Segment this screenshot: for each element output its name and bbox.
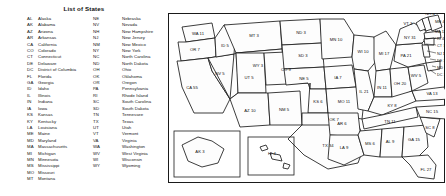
state-list-and-map-figure: List of States ALAKAZARCACOCTDEDCFLGAIDI… — [0, 0, 446, 196]
map-label-NH: NH 4 — [425, 13, 435, 16]
map-label-SC: SC 8 — [425, 125, 435, 130]
leader-line-DE — [430, 59, 436, 60]
map-label-TX: TX 34 — [322, 143, 334, 148]
map-label-RI: RI 4 — [437, 37, 444, 41]
map-label-MA: MA 12 — [435, 30, 445, 34]
map-label-NV: NV 5 — [215, 71, 225, 76]
map-label-CO: CO 9 — [281, 67, 292, 72]
map-label-WV: WV 5 — [411, 73, 422, 78]
map-label-MT: MT 3 — [249, 33, 259, 38]
state-abbr: MT — [27, 176, 38, 182]
leader-line-DC — [430, 70, 436, 74]
map-label-AL: AL 9 — [386, 139, 395, 144]
map-label-NM: NM 5 — [279, 107, 290, 112]
map-label-IN: IN 11 — [377, 85, 388, 90]
map-label-OH: OH 20 — [394, 81, 407, 86]
map-label-KS: KS 6 — [313, 99, 323, 104]
map-label-HI: HI 4 — [268, 151, 277, 156]
state-name: Montana — [38, 176, 84, 182]
map-label-ND: ND 3 — [296, 30, 306, 35]
map-label-AZ: AZ 10 — [244, 108, 256, 113]
map-label-CA: CA 55 — [186, 85, 198, 90]
state-abbr: WY — [93, 163, 122, 169]
us-electoral-map-panel: WA 11 OR 7 CA 55 NV 5 ID 5 MT 3 WY 3 UT … — [168, 13, 445, 183]
map-label-WY: WY 3 — [253, 63, 264, 68]
map-label-AK: AK 3 — [195, 149, 205, 154]
map-label-CT: CT 7 — [437, 44, 445, 48]
state-shape-CT — [424, 38, 434, 45]
map-label-MI: MI 17 — [379, 51, 390, 56]
map-label-ME: ME 4 — [435, 19, 445, 24]
state-abbr-column-2: NENVNHNJNMNYNCNDOHOKORPARISCSDTNTXUTVTVA… — [84, 16, 122, 183]
map-label-AR: AR 6 — [337, 121, 347, 126]
map-label-MO: MO 11 — [338, 99, 351, 104]
map-label-WA: WA 11 — [192, 31, 205, 36]
state-name-column-2: NebraskaNevadaNew HampshireNew JerseyNew… — [122, 16, 168, 183]
map-label-NY: NY 31 — [404, 35, 416, 40]
map-label-NC: NC 15 — [426, 109, 439, 114]
map-label-VA: VA 13 — [426, 91, 438, 96]
us-map-svg: WA 11 OR 7 CA 55 NV 5 ID 5 MT 3 WY 3 UT … — [168, 13, 445, 183]
list-title: List of States — [0, 5, 168, 12]
state-shape-WV — [408, 65, 428, 91]
state-shape-HI-1 — [260, 145, 268, 151]
map-label-TN: TN 11 — [384, 119, 396, 124]
map-label-FL: FL 27 — [421, 167, 432, 172]
map-label-MD: MD 10 — [437, 66, 445, 70]
state-list-grid: ALAKAZARCACOCTDEDCFLGAIDILINIAKSKYLAMEMD… — [0, 16, 168, 183]
map-label-SD: SD 3 — [298, 53, 308, 58]
map-label-IL: IL 21 — [359, 89, 369, 94]
map-label-PA: PA 21 — [400, 53, 412, 58]
state-name: Wyoming — [122, 163, 168, 169]
map-label-ID: ID 5 — [221, 43, 230, 48]
map-label-MN: MN 10 — [330, 37, 343, 42]
map-label-DC: DC 3 — [437, 73, 445, 77]
map-label-UT: UT 5 — [244, 75, 254, 80]
map-label-IA: IA 7 — [334, 75, 342, 80]
map-label-GA: GA 15 — [408, 137, 421, 142]
map-label-WI: WI 10 — [357, 49, 369, 54]
map-label-NE: NE 5 — [299, 76, 309, 81]
map-label-MS: MS 6 — [365, 141, 376, 146]
state-name-column-1: AlaskaAlabamaArizonaArkansasCaliforniaCo… — [38, 16, 84, 183]
state-shape-HI-3 — [283, 163, 290, 169]
map-label-KY: KY 8 — [387, 103, 397, 108]
list-of-states-panel: List of States ALAKAZARCACOCTDEDCFLGAIDI… — [0, 0, 168, 196]
map-label-OR: OR 7 — [190, 47, 201, 52]
map-label-VT: VT 3 — [404, 21, 414, 26]
map-label-NJ: NJ 15 — [437, 52, 445, 56]
map-label-DE: DE 3 — [437, 59, 445, 63]
state-abbr-column-1: ALAKAZARCACOCTDEDCFLGAIDILINIAKSKYLAMEMD… — [0, 16, 38, 183]
map-label-LA: LA 9 — [340, 145, 349, 150]
state-shape-UT2 — [236, 53, 266, 93]
state-shape-IN — [374, 69, 392, 97]
